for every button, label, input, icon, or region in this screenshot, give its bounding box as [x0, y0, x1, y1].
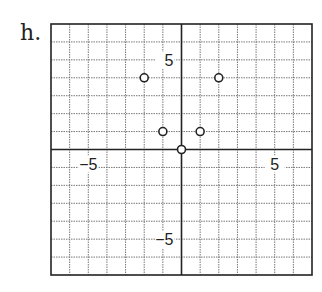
x-tick-label: −5 — [79, 156, 97, 173]
data-point — [178, 146, 186, 154]
x-tick-label: 5 — [270, 156, 279, 173]
data-point — [215, 74, 223, 82]
y-tick-label: 5 — [165, 52, 174, 69]
data-point — [140, 74, 148, 82]
data-point — [196, 128, 204, 136]
y-tick-label: −5 — [155, 231, 173, 248]
data-point — [159, 128, 167, 136]
coordinate-grid-chart: −555−5 — [0, 0, 322, 292]
